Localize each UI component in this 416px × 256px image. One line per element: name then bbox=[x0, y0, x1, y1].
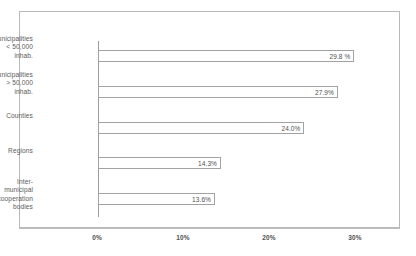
x-tick-label-0: 0% bbox=[92, 234, 102, 242]
category-label-municipalities-over-50000: Municipalities > 50,000 inhab. bbox=[0, 71, 33, 96]
chart-plot-frame: 29.8 % 27.9% 24.0% 14.3% 13.6% bbox=[19, 11, 400, 228]
bar-chart: 29.8 % 27.9% 24.0% 14.3% 13.6% Municipal… bbox=[0, 0, 416, 256]
value-axis-line bbox=[19, 228, 400, 229]
x-tick-label-10: 10% bbox=[176, 234, 189, 242]
x-tick-label-30: 30% bbox=[348, 234, 361, 242]
bar-value-label: 14.3% bbox=[198, 160, 217, 167]
bar-regions: 14.3% bbox=[98, 157, 221, 169]
bar-municipalities-over-50000: 27.9% bbox=[98, 86, 338, 98]
category-label-municipalities-under-50000: Municipalities < 50,000 inhab. bbox=[0, 35, 33, 60]
bar-value-label: 13.6% bbox=[192, 196, 211, 203]
bar-inter-municipal-cooperation-bodies: 13.6% bbox=[98, 193, 215, 205]
plot-area: 29.8 % 27.9% 24.0% 14.3% 13.6% bbox=[20, 12, 401, 229]
bar-counties: 24.0% bbox=[98, 122, 304, 134]
bar-value-label: 29.8 % bbox=[329, 53, 350, 60]
x-tick-label-20: 20% bbox=[262, 234, 275, 242]
category-label-counties: Counties bbox=[6, 112, 33, 120]
category-label-regions: Regions bbox=[8, 147, 33, 155]
category-label-inter-municipal-cooperation-bodies: Inter-municipal cooperation bodies bbox=[0, 178, 33, 212]
bar-municipalities-under-50000: 29.8 % bbox=[98, 50, 354, 62]
bar-value-label: 24.0% bbox=[281, 125, 300, 132]
bar-value-label: 27.9% bbox=[315, 89, 334, 96]
